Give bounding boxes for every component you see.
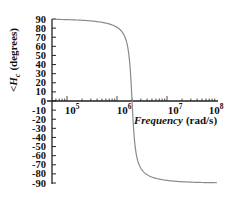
x-tick-label: 106 [117, 102, 132, 116]
svg-text:Frequency(rad/s): Frequency(rad/s) [133, 114, 217, 127]
x-axis-label: Frequency(rad/s) [133, 114, 217, 127]
y-tick-label: -90 [32, 178, 46, 189]
x-tick-label: 105 [65, 102, 80, 116]
svg-text:<Hc(degrees): <Hc(degrees) [7, 28, 22, 92]
x-axis-ticks: 105106107108 [56, 96, 224, 116]
phase-plot: <Hc(degrees) 9080706050403020100-10-20-3… [0, 0, 235, 206]
y-axis-label: <Hc(degrees) [7, 28, 22, 92]
